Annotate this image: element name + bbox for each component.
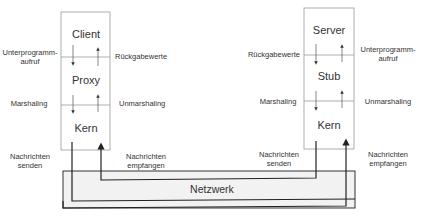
network-label: Netzwerk [190, 183, 235, 195]
layer-server: Server [313, 24, 346, 36]
label-client-receive-2: empfangen [127, 161, 165, 170]
label-client-unmarshal: Unmarshaling [119, 99, 165, 108]
label-server-receive-1: Nachrichten [368, 150, 408, 159]
rpc-diagram: Client Proxy Kern Server Stub Kern Unter… [0, 0, 425, 216]
layer-stub: Stub [318, 70, 341, 82]
label-server-unmarshal: Unmarshaling [365, 97, 411, 106]
label-client-marshal: Marshaling [11, 99, 48, 108]
label-server-marshal: Marshaling [260, 97, 297, 106]
label-server-send-2: senden [267, 159, 292, 168]
label-server-return: Rückgabewerte [248, 50, 300, 59]
label-client-call-1: Unterprogramm- [2, 48, 58, 57]
label-client-call-2: aufruf [20, 57, 40, 66]
label-server-call-2: aufruf [378, 54, 398, 63]
layer-client: Client [72, 28, 100, 40]
label-client-receive-1: Nachrichten [126, 152, 166, 161]
label-client-send-1: Nachrichten [10, 152, 50, 161]
layer-proxy: Proxy [72, 74, 101, 86]
label-server-call-1: Unterprogramm- [360, 45, 416, 54]
layer-kern-server: Kern [317, 119, 340, 131]
layer-kern-client: Kern [74, 122, 97, 134]
label-client-return: Rückgabewerte [115, 52, 167, 61]
label-client-send-2: senden [18, 161, 43, 170]
label-server-send-1: Nachrichten [259, 150, 299, 159]
label-server-receive-2: empfangen [369, 159, 407, 168]
